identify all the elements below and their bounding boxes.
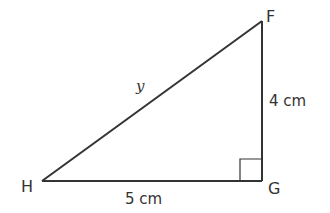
- right-angle-marker: [240, 159, 262, 181]
- side-label-hg: 5 cm: [125, 190, 162, 208]
- side-label-hf: y: [135, 77, 145, 95]
- triangle-diagram: F G H 5 cm 4 cm y: [0, 0, 330, 213]
- vertex-label-f: F: [266, 7, 275, 26]
- vertex-label-g: G: [268, 179, 280, 198]
- side-label-gf: 4 cm: [269, 92, 306, 110]
- side-hf: [42, 21, 262, 181]
- vertex-label-h: H: [21, 177, 33, 196]
